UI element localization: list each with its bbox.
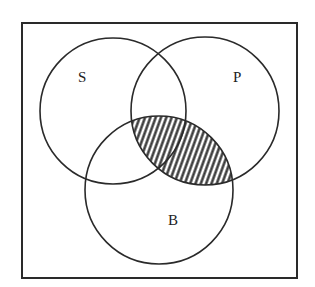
set-s-circle [40,38,186,184]
set-b-label: B [168,212,178,228]
set-p-label: P [233,69,241,85]
venn-diagram: S P B [0,0,315,287]
set-s-label: S [78,69,86,85]
